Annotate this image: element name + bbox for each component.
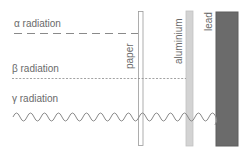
gamma-radiation-label: γ radiation [12, 94, 58, 104]
alpha-radiation-label: α radiation [14, 19, 61, 29]
lead-label: lead [204, 12, 214, 31]
lead-barrier [216, 12, 238, 146]
aluminium-barrier [186, 11, 193, 146]
aluminium-label: aluminium [174, 18, 184, 64]
paper-label: paper [125, 43, 135, 69]
beta-radiation-label: β radiation [12, 64, 59, 74]
